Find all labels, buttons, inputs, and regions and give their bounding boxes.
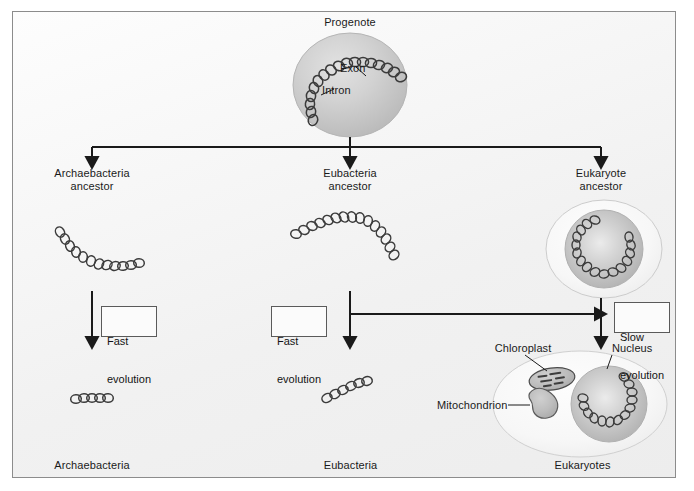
archaebacteria-ancestor-label-line2: ancestor (32, 180, 152, 193)
nucleus-label: Nucleus (612, 342, 652, 355)
intron-label: Intron (322, 84, 351, 97)
eubacteria-evolution-line1: Fast (277, 335, 321, 348)
eukaryote-evolution-box: Slow evolution (614, 302, 670, 333)
archaebacteria-evolution-line1: Fast (107, 335, 151, 348)
mitochondrion-label: Mitochondrion (437, 399, 507, 412)
eubacteria-ancestor-label-line1: Eubacteria (290, 167, 410, 180)
progenote-label: Progenote (300, 16, 400, 29)
archaebacteria-ancestor-label-line1: Archaebacteria (32, 167, 152, 180)
eukaryote-ancestor-label-line1: Eukaryote (541, 167, 661, 180)
archaebacteria-label: Archaebacteria (32, 459, 152, 472)
eukaryote-evolution-line2: evolution (620, 369, 664, 382)
evolution-arrows (92, 291, 601, 340)
eubacteria-ancestor-dna (290, 210, 401, 262)
eubacteria-evolution-line2: evolution (277, 373, 321, 386)
archaebacteria-evolution-line2: evolution (107, 373, 151, 386)
archaebacteria-evolution-box: Fast evolution (101, 306, 157, 337)
exon-label: Exon (340, 62, 365, 75)
chloroplast-label: Chloroplast (478, 342, 568, 355)
eubacteria-ancestor-label-line2: ancestor (290, 180, 410, 193)
eukaryote-ancestor-label-line2: ancestor (541, 180, 661, 193)
archaebacteria-ancestor-dna (54, 225, 145, 271)
diagram-canvas: Progenote Exon Intron Archaebacteria anc… (0, 0, 694, 491)
branch-tree (92, 137, 601, 160)
eubacteria-label: Eubacteria (288, 459, 413, 472)
eubacteria-dna (320, 376, 373, 405)
eukaryotes-label: Eukaryotes (535, 459, 630, 472)
eukaryote-ancestor-cell (546, 200, 662, 298)
eubacteria-evolution-box: Fast evolution (271, 306, 327, 337)
